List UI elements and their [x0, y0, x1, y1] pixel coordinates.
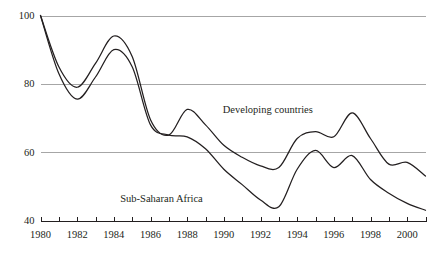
x-axis-tick-label-1988: 1988 [177, 229, 198, 240]
y-axis-tick-label-100: 100 [19, 10, 35, 21]
x-axis-tick-labels: 1980198219841986198819901992199419961998… [30, 229, 418, 240]
x-axis-tick-label-1986: 1986 [140, 229, 161, 240]
y-axis-tick-labels: 100806040 [19, 10, 35, 226]
x-axis-tick-label-1984: 1984 [103, 229, 125, 240]
x-axis-tick-label-1992: 1992 [250, 229, 271, 240]
series-curve-0 [41, 16, 426, 177]
y-axis-tick-label-40: 40 [24, 215, 35, 226]
x-axis-tick-label-1994: 1994 [287, 229, 309, 240]
x-axis-tick-label-1990: 1990 [213, 229, 234, 240]
axis-group [41, 217, 427, 222]
x-axis-tick-label-1996: 1996 [323, 229, 344, 240]
x-axis-tick-label-1998: 1998 [360, 229, 381, 240]
x-axis-tick-label-1980: 1980 [30, 229, 51, 240]
gridlines-group [41, 17, 426, 153]
y-axis-tick-label-60: 60 [24, 147, 35, 158]
chart-container: 100806040 198019821984198619881990199219… [0, 0, 442, 260]
series-annotations-group: Developing countriesSub-Saharan Africa [120, 104, 313, 204]
x-axis-tick-label-1982: 1982 [67, 229, 88, 240]
line-chart: 100806040 198019821984198619881990199219… [0, 0, 442, 260]
y-axis-tick-label-80: 80 [24, 78, 35, 89]
x-axis-tick-label-2000: 2000 [397, 229, 418, 240]
series-label-1: Sub-Saharan Africa [120, 193, 203, 204]
series-label-0: Developing countries [223, 104, 313, 115]
